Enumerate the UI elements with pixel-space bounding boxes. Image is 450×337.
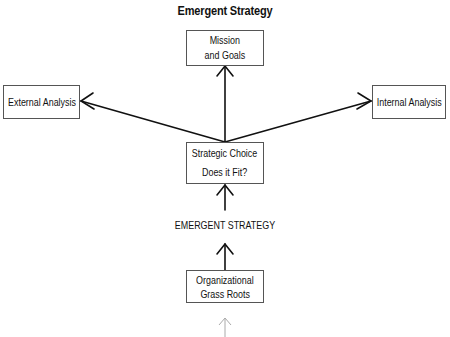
emergent-strategy-label: EMERGENT STRATEGY — [161, 219, 289, 231]
node-mission-line2: and Goals — [205, 48, 246, 63]
node-choice-line1: Strategic Choice — [192, 144, 257, 163]
node-external-label: External Analysis — [8, 95, 76, 110]
node-mission-line1: Mission — [210, 33, 240, 48]
node-choice-line2: Does it Fit? — [202, 163, 247, 182]
node-internal-analysis: Internal Analysis — [372, 85, 446, 119]
node-grass-line2: Grass Roots — [200, 287, 250, 301]
node-external-analysis: External Analysis — [3, 85, 80, 119]
node-grass-line1: Organizational — [196, 273, 254, 287]
node-mission: Mission and Goals — [186, 30, 264, 66]
node-grass-roots: Organizational Grass Roots — [186, 270, 264, 303]
node-strategic-choice: Strategic Choice Does it Fit? — [186, 142, 264, 184]
node-internal-label: Internal Analysis — [377, 95, 442, 110]
